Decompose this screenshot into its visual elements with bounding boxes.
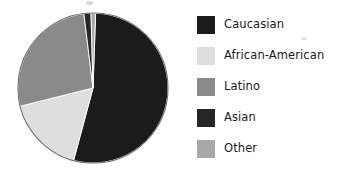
pie-chart-figure: Caucasian African-American Latino Asian … [0,0,340,179]
legend-swatch-african-american [197,47,215,65]
legend-swatch-other [197,140,215,158]
pie-slice-group [18,13,168,163]
legend-item-african-american[interactable]: African-American [197,40,340,71]
legend-item-caucasian[interactable]: Caucasian [197,9,340,40]
legend-item-other[interactable]: Other [197,133,340,164]
chart-legend: Caucasian African-American Latino Asian … [197,9,340,174]
legend-label-latino: Latino [224,80,260,93]
legend-label-african-american: African-American [224,49,324,62]
legend-swatch-asian [197,109,215,127]
legend-label-other: Other [224,142,257,155]
legend-item-latino[interactable]: Latino [197,71,340,102]
pie-plot-area [0,0,195,179]
legend-swatch-latino [197,78,215,96]
legend-item-asian[interactable]: Asian [197,102,340,133]
legend-swatch-caucasian [197,16,215,34]
pie-svg [0,0,195,179]
legend-label-asian: Asian [224,111,256,124]
legend-label-caucasian: Caucasian [224,18,284,31]
